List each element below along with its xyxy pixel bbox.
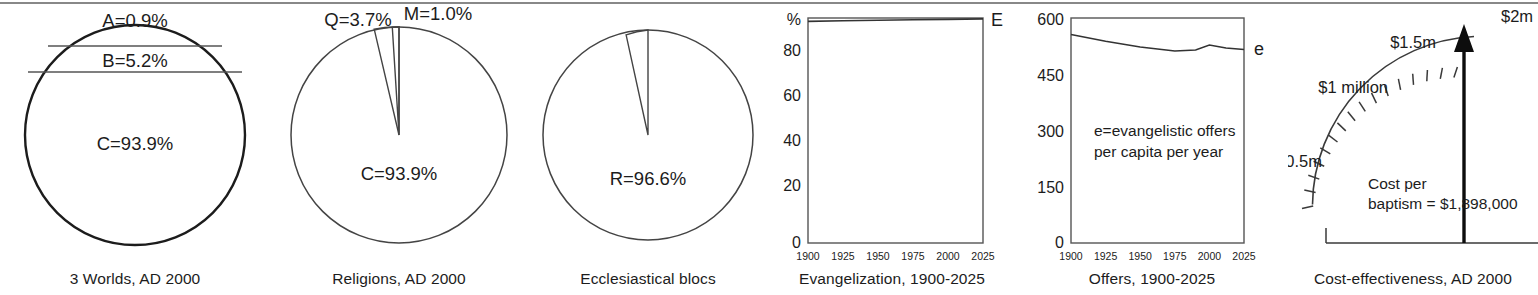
ecclesiastical-pie: R=96.6% bbox=[528, 0, 768, 270]
xtick-label-1925: 1925 bbox=[1094, 250, 1118, 262]
caption-offers: Offers, 1900-2025 bbox=[1016, 270, 1288, 288]
xtick-label-1950: 1950 bbox=[1129, 250, 1153, 262]
caption-three-worlds: 3 Worlds, AD 2000 bbox=[0, 270, 270, 288]
series-line-e bbox=[808, 19, 983, 22]
ytick-label-0: 0 bbox=[1055, 234, 1064, 251]
label-religion-q: Q=3.7% bbox=[324, 9, 391, 30]
caption-cost-effectiveness: Cost-effectiveness, AD 2000 bbox=[1288, 270, 1538, 288]
xtick-label-1975: 1975 bbox=[1163, 250, 1187, 262]
ytick-label-0: 0 bbox=[792, 234, 801, 251]
label-religion-c: C=93.9% bbox=[361, 163, 438, 184]
annotation-offers-line2: per capita per year bbox=[1094, 143, 1223, 160]
ytick-label-300: 300 bbox=[1037, 123, 1064, 140]
label-religion-m: M=1.0% bbox=[404, 3, 472, 24]
offers-line-chart: e e=evangelistic offers per capita per y… bbox=[1016, 0, 1288, 270]
label-bloc-r: R=96.6% bbox=[610, 168, 687, 189]
caption-religions: Religions, AD 2000 bbox=[270, 270, 528, 288]
xtick-label-2025: 2025 bbox=[971, 250, 995, 262]
ytick-label-60: 60 bbox=[783, 87, 801, 104]
annotation-cost-line2: baptism = $1,898,000 bbox=[1368, 195, 1518, 212]
caption-ecclesiastical-blocs: Ecclesiastical blocs bbox=[528, 270, 768, 288]
cost-effectiveness-gauge: $0.5m $1 million $1.5m $2m Cost per bapt… bbox=[1288, 0, 1538, 270]
ytick-label-450: 450 bbox=[1037, 67, 1064, 84]
panel-cost-effectiveness: $0.5m $1 million $1.5m $2m Cost per bapt… bbox=[1288, 0, 1538, 295]
xtick-label-1900: 1900 bbox=[1059, 250, 1083, 262]
ytick-label-600: 600 bbox=[1037, 11, 1064, 28]
series-line-e bbox=[1071, 35, 1244, 52]
panel-evangelization: E % 80 60 40 20 0 1900 1925 1950 1975 20… bbox=[768, 0, 1016, 295]
panel-ecclesiastical-blocs: R=96.6% Ecclesiastical blocs bbox=[528, 0, 768, 295]
xtick-label-2000: 2000 bbox=[936, 250, 960, 262]
panel-offers: e e=evangelistic offers per capita per y… bbox=[1016, 0, 1288, 295]
xtick-label-2000: 2000 bbox=[1198, 250, 1222, 262]
ytick-label-100: % bbox=[787, 11, 801, 28]
panel-religions: Q=3.7% M=1.0% C=93.9% Religions, AD 2000 bbox=[270, 0, 528, 295]
religions-pie: Q=3.7% M=1.0% C=93.9% bbox=[270, 0, 528, 270]
xtick-label-1900: 1900 bbox=[796, 250, 820, 262]
xtick-label-1950: 1950 bbox=[866, 250, 890, 262]
gauge-label-one-half-million: $1.5m bbox=[1390, 33, 1436, 51]
annotation-cost-line1: Cost per bbox=[1368, 175, 1427, 192]
xtick-label-1975: 1975 bbox=[901, 250, 925, 262]
ytick-label-80: 80 bbox=[783, 42, 801, 59]
evangelization-line-chart: E % 80 60 40 20 0 1900 1925 1950 1975 20… bbox=[768, 0, 1016, 270]
ytick-label-150: 150 bbox=[1037, 179, 1064, 196]
ytick-label-20: 20 bbox=[783, 177, 801, 194]
caption-evangelization: Evangelization, 1900-2025 bbox=[768, 270, 1016, 288]
gauge-label-one-million: $1 million bbox=[1318, 78, 1388, 96]
gauge-label-half-million: $0.5m bbox=[1288, 152, 1322, 170]
xtick-label-2025: 2025 bbox=[1232, 250, 1256, 262]
three-worlds-diagram: A=0.9% B=5.2% C=93.9% bbox=[0, 0, 270, 270]
ytick-label-40: 40 bbox=[783, 132, 801, 149]
label-world-b: B=5.2% bbox=[102, 50, 167, 71]
six-panel-figure: A=0.9% B=5.2% C=93.9% 3 Worlds, AD 2000 … bbox=[0, 0, 1538, 295]
label-world-a: A=0.9% bbox=[102, 10, 167, 31]
series-label-e: e bbox=[1254, 39, 1264, 59]
series-label-e: E bbox=[991, 10, 1003, 30]
pie-slice-other bbox=[626, 30, 648, 135]
plot-frame bbox=[808, 18, 983, 243]
annotation-offers-line1: e=evangelistic offers bbox=[1094, 122, 1236, 139]
xtick-label-1925: 1925 bbox=[831, 250, 855, 262]
panel-three-worlds: A=0.9% B=5.2% C=93.9% 3 Worlds, AD 2000 bbox=[0, 0, 270, 295]
label-world-c: C=93.9% bbox=[97, 133, 174, 154]
gauge-label-two-million: $2m bbox=[1501, 7, 1533, 25]
